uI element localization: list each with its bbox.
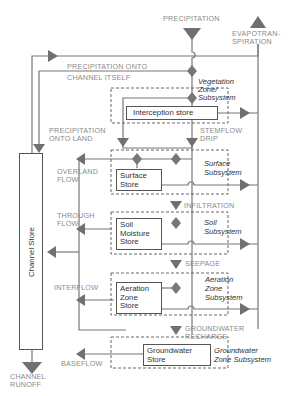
evapotranspiration-label-2: SPIRATION xyxy=(232,38,272,46)
precip-channel-label-2: CHANNEL ITSELF xyxy=(67,74,130,82)
overland-flow-label-2: FLOW xyxy=(57,176,79,184)
interception-store: Interception store xyxy=(126,106,218,120)
vegetation-subsystem-label-3: Subsystem xyxy=(198,94,236,103)
precip-land-label-2: ONTO LAND xyxy=(49,135,93,143)
gw-recharge-label-2: RECHARGE xyxy=(185,333,227,341)
channel-store-label: Channel Store xyxy=(27,227,36,277)
through-flow-label-2: FLOW xyxy=(57,220,79,228)
aeration-zone-store: Aeration Zone Store xyxy=(116,282,162,314)
soil-subsystem-label-2: Subsystem xyxy=(204,228,242,237)
groundwater-store: Groundwater Store xyxy=(143,344,211,366)
seepage-label: SEEPAGE xyxy=(185,260,220,268)
groundwater-subsystem-label-2: Zone Subsystem xyxy=(214,356,271,365)
precipitation-label: PRECIPITATION xyxy=(163,15,220,23)
surface-store-label-2: Store xyxy=(120,181,158,190)
interception-store-label: Interception store xyxy=(133,108,193,117)
groundwater-store-label-2: Store xyxy=(147,356,207,365)
soil-store-label-3: Store xyxy=(120,238,158,247)
evapotranspiration-arrow xyxy=(250,16,266,28)
aeration-subsystem-label-3: Subsystem xyxy=(205,294,243,303)
surface-subsystem-label-2: Subsystem xyxy=(204,169,242,178)
surface-store: Surface Store xyxy=(116,169,162,191)
precip-channel-label-1: PRECIPITATION ONTO xyxy=(67,63,147,71)
stemflow-label-2: DRIP xyxy=(200,135,218,143)
interflow-label: INTERFLOW xyxy=(54,284,98,292)
flow-lines xyxy=(0,0,303,396)
channel-store: Channel Store xyxy=(19,153,43,350)
channel-runoff-label-2: RUNOFF xyxy=(10,381,41,389)
precipitation-arrow xyxy=(183,28,201,40)
aeration-store-label-3: Store xyxy=(120,302,158,311)
baseflow-label: BASEFLOW xyxy=(61,360,103,368)
soil-moisture-store: Soil Moisture Store xyxy=(116,218,162,250)
infiltration-label: INFILTRATION xyxy=(184,202,234,210)
